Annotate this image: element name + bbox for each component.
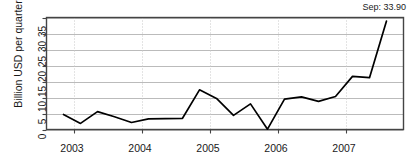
- chart-container: Sep: 33.90 Billion USD per quarter 0 5 1…: [0, 0, 410, 161]
- horizontal-gridlines: [47, 19, 404, 131]
- data-line: [64, 21, 387, 129]
- axis-ticks: [43, 19, 347, 134]
- plot-area: [0, 0, 410, 161]
